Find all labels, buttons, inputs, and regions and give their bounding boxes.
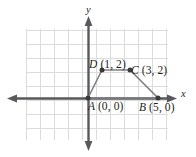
point-label-A: A (0, 0) <box>88 100 123 112</box>
point-label-C: C (3, 2) <box>131 64 167 76</box>
coordinate-plane-figure: D (1, 2) C (3, 2) A (0, 0) B (5, 0) x y <box>0 0 196 157</box>
point-B <box>156 96 161 101</box>
point-label-B: B (5, 0) <box>139 101 175 113</box>
y-axis-bottom-arrow <box>85 141 93 151</box>
y-axis-top-arrow <box>85 16 93 26</box>
plot-svg <box>0 0 196 157</box>
grid-lines <box>26 29 168 140</box>
y-axis <box>85 16 93 151</box>
y-axis-label: y <box>86 4 91 15</box>
x-axis-label: x <box>181 88 186 99</box>
x-axis-left-arrow <box>7 95 17 103</box>
point-label-D: D (1, 2) <box>89 58 126 70</box>
